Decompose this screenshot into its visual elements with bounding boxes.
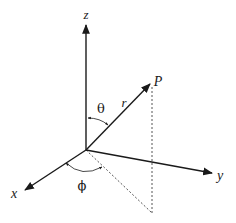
y-axis-label: y <box>215 168 224 183</box>
x-axis-label: x <box>10 186 18 201</box>
projection-ground-dashed-line <box>86 150 152 213</box>
y-axis <box>86 150 212 173</box>
diagram-svg: z y x P r θ ϕ <box>0 0 236 223</box>
position-vector-r <box>86 84 150 150</box>
theta-label: θ <box>97 101 105 116</box>
phi-angle-arc <box>66 163 102 172</box>
z-axis-label: z <box>82 7 88 22</box>
phi-label: ϕ <box>78 178 87 193</box>
spherical-coordinates-diagram: z y x P r θ ϕ <box>0 0 236 223</box>
point-p-label: P <box>153 74 163 89</box>
theta-angle-arc <box>88 118 108 125</box>
